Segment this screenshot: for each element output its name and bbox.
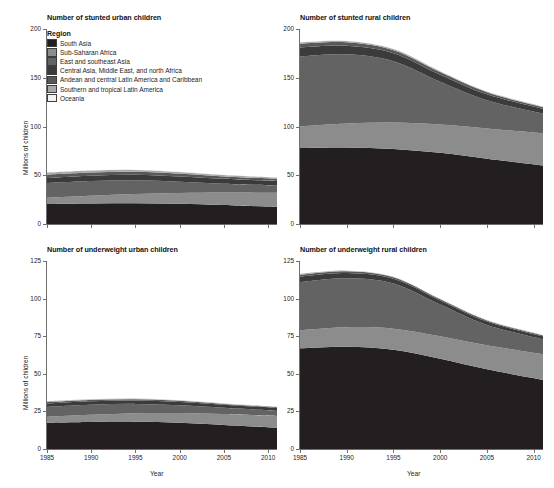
x-axis-tick bbox=[135, 450, 136, 453]
y-axis-tick bbox=[296, 299, 299, 300]
x-axis-line bbox=[46, 449, 277, 450]
y-axis-tick-label: 50 bbox=[274, 171, 294, 178]
x-axis-tick-label: 2010 bbox=[256, 454, 280, 461]
x-axis-tick-label: 1990 bbox=[79, 454, 103, 461]
x-axis-tick bbox=[180, 450, 181, 453]
plot-area-underweight-rural bbox=[300, 261, 543, 449]
x-axis-tick bbox=[347, 450, 348, 453]
x-axis-tick-label: 2000 bbox=[428, 454, 452, 461]
x-axis-tick-label: 2010 bbox=[522, 454, 546, 461]
legend-swatch-icon bbox=[47, 66, 57, 75]
x-axis-tick bbox=[393, 450, 394, 453]
y-axis-tick-label: 25 bbox=[21, 407, 41, 414]
y-axis-tick-label: 50 bbox=[274, 370, 294, 377]
legend-item[interactable]: South Asia bbox=[47, 39, 202, 48]
x-axis-tick bbox=[91, 225, 92, 228]
y-axis-tick-label: 100 bbox=[274, 295, 294, 302]
x-axis-tick bbox=[300, 225, 301, 228]
x-axis-line bbox=[299, 449, 543, 450]
y-axis-tick bbox=[43, 127, 46, 128]
x-axis-tick-label: 1990 bbox=[335, 454, 359, 461]
y-axis-tick-label: 75 bbox=[21, 332, 41, 339]
y-axis-line bbox=[46, 261, 47, 449]
x-axis-tick bbox=[534, 450, 535, 453]
y-axis-tick bbox=[43, 261, 46, 262]
y-axis-tick bbox=[43, 374, 46, 375]
y-axis-tick bbox=[296, 175, 299, 176]
legend-item-label: Sub-Saharan Africa bbox=[60, 48, 116, 57]
legend-item-label: Southern and tropical Latin America bbox=[60, 85, 163, 94]
legend-item[interactable]: Oceania bbox=[47, 94, 202, 103]
y-axis-tick bbox=[43, 411, 46, 412]
x-axis-title-underweight-urban: Year bbox=[150, 470, 163, 477]
panel-underweight-urban: Number of underweight urban children Mil… bbox=[0, 238, 290, 488]
x-axis-tick bbox=[440, 450, 441, 453]
y-axis-tick-label: 200 bbox=[274, 25, 294, 32]
x-axis-tick bbox=[300, 450, 301, 453]
y-axis-line bbox=[299, 261, 300, 449]
y-axis-tick-label: 0 bbox=[21, 220, 41, 227]
y-axis-tick bbox=[296, 374, 299, 375]
y-axis-tick bbox=[43, 299, 46, 300]
x-axis-tick-label: 1995 bbox=[381, 454, 405, 461]
y-axis-tick bbox=[296, 261, 299, 262]
y-axis-tick-label: 150 bbox=[21, 74, 41, 81]
legend-item[interactable]: Southern and tropical Latin America bbox=[47, 84, 202, 93]
x-axis-tick bbox=[224, 450, 225, 453]
y-axis-tick-label: 100 bbox=[21, 123, 41, 130]
y-axis-tick-label: 0 bbox=[274, 220, 294, 227]
x-axis-tick bbox=[347, 225, 348, 228]
x-axis-tick bbox=[393, 225, 394, 228]
legend-item[interactable]: East and southeast Asia bbox=[47, 57, 202, 66]
y-axis-tick bbox=[296, 29, 299, 30]
x-axis-tick-label: 1985 bbox=[288, 454, 312, 461]
y-axis-tick-label: 125 bbox=[21, 257, 41, 264]
y-axis-tick-label: 100 bbox=[274, 123, 294, 130]
panel-stunted-rural: Number of stunted rural children 0501001… bbox=[287, 0, 554, 240]
y-axis-tick-label: 75 bbox=[274, 332, 294, 339]
x-axis-tick bbox=[224, 225, 225, 228]
panel-title-stunted-urban: Number of stunted urban children bbox=[47, 13, 161, 22]
legend-item[interactable]: Andean and central Latin America and Car… bbox=[47, 75, 202, 84]
x-axis-line bbox=[46, 224, 277, 225]
panel-title-underweight-rural: Number of underweight rural children bbox=[300, 245, 427, 254]
area-series-group-stunted-rural bbox=[300, 29, 543, 224]
legend-item-label: Central Asia, Middle East, and north Afr… bbox=[60, 66, 182, 75]
legend-item-label: South Asia bbox=[60, 39, 91, 48]
x-axis-tick bbox=[47, 450, 48, 453]
y-axis-tick bbox=[43, 175, 46, 176]
plot-area-underweight-urban bbox=[47, 261, 277, 449]
panel-title-underweight-urban: Number of underweight urban children bbox=[47, 245, 178, 254]
legend-swatch-icon bbox=[47, 57, 57, 66]
y-axis-title-underweight-urban: Millions of children bbox=[22, 356, 29, 410]
x-axis-tick bbox=[135, 225, 136, 228]
x-axis-tick bbox=[91, 450, 92, 453]
x-axis-tick bbox=[268, 225, 269, 228]
x-axis-tick-label: 2005 bbox=[212, 454, 236, 461]
area-band-south-asia bbox=[47, 203, 277, 224]
panel-title-stunted-rural: Number of stunted rural children bbox=[300, 13, 410, 22]
legend-item-label: Andean and central Latin America and Car… bbox=[60, 75, 202, 84]
y-axis-tick-label: 100 bbox=[21, 295, 41, 302]
y-axis-line bbox=[46, 29, 47, 224]
x-axis-tick-label: 2000 bbox=[168, 454, 192, 461]
x-axis-tick bbox=[487, 450, 488, 453]
x-axis-title-underweight-rural: Year bbox=[407, 470, 420, 477]
legend-swatch-icon bbox=[47, 76, 57, 85]
legend-swatch-icon bbox=[47, 39, 57, 48]
y-axis-tick-label: 200 bbox=[21, 25, 41, 32]
x-axis-tick bbox=[268, 450, 269, 453]
x-axis-tick bbox=[487, 225, 488, 228]
legend-title: Region bbox=[47, 30, 202, 37]
y-axis-tick bbox=[43, 336, 46, 337]
y-axis-tick-label: 25 bbox=[274, 407, 294, 414]
y-axis-tick-label: 150 bbox=[274, 74, 294, 81]
legend-item[interactable]: Central Asia, Middle East, and north Afr… bbox=[47, 66, 202, 75]
x-axis-tick-label: 1995 bbox=[123, 454, 147, 461]
plot-area-stunted-rural bbox=[300, 29, 543, 224]
y-axis-tick-label: 125 bbox=[274, 257, 294, 264]
legend-swatch-icon bbox=[47, 48, 57, 57]
legend-item[interactable]: Sub-Saharan Africa bbox=[47, 48, 202, 57]
y-axis-tick-label: 0 bbox=[274, 445, 294, 452]
y-axis-tick-label: 0 bbox=[21, 445, 41, 452]
